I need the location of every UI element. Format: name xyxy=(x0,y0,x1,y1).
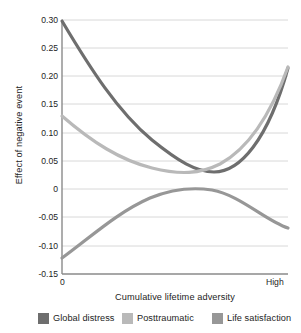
plot-area: 0.30 0.25 0.20 0.15 0.10 0.05 0 -0.05 -0… xyxy=(0,0,301,300)
chart-legend: Global distress Posttraumatic Life satis… xyxy=(0,313,301,333)
legend-swatch-icon xyxy=(38,313,49,324)
legend-swatch-icon xyxy=(122,313,133,324)
legend-item-life-satisfaction[interactable]: Life satisfaction xyxy=(212,313,291,324)
figure-container: 0.30 0.25 0.20 0.15 0.10 0.05 0 -0.05 -0… xyxy=(0,0,301,333)
series-line-life-satisfaction xyxy=(62,189,288,258)
legend-label: Posttraumatic xyxy=(137,313,194,324)
chart-svg xyxy=(0,0,301,300)
legend-swatch-icon xyxy=(212,313,223,324)
series-line-global-distress xyxy=(62,21,288,172)
x-axis-title: Cumulative lifetime adversity xyxy=(62,292,288,302)
legend-label: Life satisfaction xyxy=(227,313,291,324)
legend-item-global-distress[interactable]: Global distress xyxy=(38,313,115,324)
x-tick-1: High xyxy=(266,277,284,287)
x-tick-0: 0 xyxy=(60,277,65,287)
legend-label: Global distress xyxy=(53,313,115,324)
legend-item-posttraumatic[interactable]: Posttraumatic xyxy=(122,313,194,324)
